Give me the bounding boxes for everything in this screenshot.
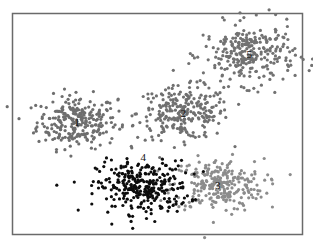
data-point [230,182,233,185]
data-point [211,206,214,209]
data-point [52,92,55,95]
data-point [221,54,224,57]
data-point [105,178,108,181]
data-point [202,34,205,37]
data-point [240,169,243,172]
data-point [186,194,189,197]
data-point [252,177,255,180]
data-point [209,110,212,113]
data-point [97,186,100,189]
data-point [233,49,236,52]
data-point [17,117,20,120]
data-point [289,64,292,67]
data-point [183,143,186,146]
data-point [182,120,185,123]
data-point [97,128,100,131]
data-point [188,201,191,204]
data-point [180,159,183,162]
data-point [51,100,54,103]
data-point [190,100,193,103]
data-point [103,161,106,164]
data-point [265,192,268,195]
data-point [160,114,163,117]
data-point [109,141,112,144]
data-point [243,209,246,212]
data-point [286,25,289,28]
data-point [105,108,108,111]
data-point [175,195,178,198]
cluster-label-2: 2 [181,107,187,119]
data-point [204,95,207,98]
data-point [124,200,127,203]
data-point [139,173,142,176]
data-point [144,139,147,142]
data-point [232,199,235,202]
data-point [84,107,87,110]
data-point [294,74,297,77]
data-point [127,213,130,216]
data-point [77,102,80,105]
data-point [260,34,263,37]
data-point [110,223,113,226]
data-point [151,108,154,111]
data-point [215,104,218,107]
data-point [146,199,149,202]
data-point [237,45,240,48]
data-point [130,207,133,210]
data-point [245,185,248,188]
data-point [161,158,164,161]
data-point [50,127,53,130]
data-point [110,121,113,124]
data-point [110,205,113,208]
data-point [229,160,232,163]
data-point [201,185,204,188]
data-point [98,123,101,126]
data-point [109,116,112,119]
data-point [161,121,164,124]
data-point [226,187,229,190]
data-point [116,98,119,101]
data-point [202,108,205,111]
data-point [167,86,170,89]
data-point [100,115,103,118]
data-point [225,51,228,54]
data-point [234,24,237,27]
data-point [90,147,93,150]
data-point [161,104,164,107]
data-point [213,66,216,69]
data-point [233,58,236,61]
data-point [92,131,95,134]
data-point [248,70,251,73]
data-point [35,130,38,133]
data-point [174,168,177,171]
data-point [219,40,222,43]
data-point [167,191,170,194]
data-point [279,48,282,51]
data-point [203,236,206,239]
data-point [149,179,152,182]
data-point [286,69,289,72]
data-point [159,119,162,122]
data-point [256,90,259,93]
data-point [41,115,44,118]
data-point [252,61,255,64]
data-point [147,97,150,100]
data-point [182,201,185,204]
data-point [100,182,103,185]
data-point [251,196,254,199]
data-point [105,130,108,133]
data-point [234,37,237,40]
data-point [92,90,95,93]
data-point [269,61,272,64]
data-point [179,131,182,134]
data-point [113,172,116,175]
data-point [130,145,133,148]
data-point [146,125,149,128]
data-point [247,180,250,183]
data-point [195,80,198,83]
data-point [187,62,190,65]
data-point [221,74,224,77]
data-point [90,184,93,187]
data-point [188,86,191,89]
data-point [108,177,111,180]
